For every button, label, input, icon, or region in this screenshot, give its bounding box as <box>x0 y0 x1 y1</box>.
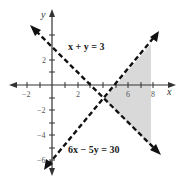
x-tick-label-2: 2 <box>76 90 80 99</box>
equation-label-1: x + y = 3 <box>68 41 104 52</box>
graph: y x −2 2 6 8 2 −2 −4 −6 x + y = 3 6x − 5… <box>0 0 180 183</box>
equation-label-2: 6x − 5y = 30 <box>68 144 119 155</box>
y-tick-label-neg2: −2 <box>37 106 46 115</box>
y-axis-up-arrow-icon <box>49 9 55 17</box>
x-axis-left-arrow-icon <box>9 82 17 88</box>
y-axis-label: y <box>40 9 46 20</box>
x-axis-label: x <box>166 86 172 97</box>
x-tick-label-8: 8 <box>151 90 155 99</box>
y-axis-down-arrow-icon <box>49 168 55 176</box>
y-tick-label-2: 2 <box>42 56 46 65</box>
y-tick-label-neg6: −6 <box>37 156 46 165</box>
x-tick-label-neg2: −2 <box>22 90 31 99</box>
y-axis <box>49 9 55 176</box>
y-tick-label-neg4: −4 <box>37 131 46 140</box>
x-tick-label-6: 6 <box>126 90 130 99</box>
